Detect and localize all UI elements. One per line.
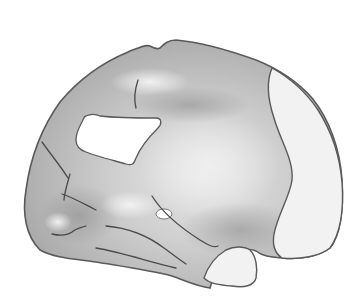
illustration-canvas (0, 0, 356, 305)
brain-illustration (0, 0, 356, 305)
